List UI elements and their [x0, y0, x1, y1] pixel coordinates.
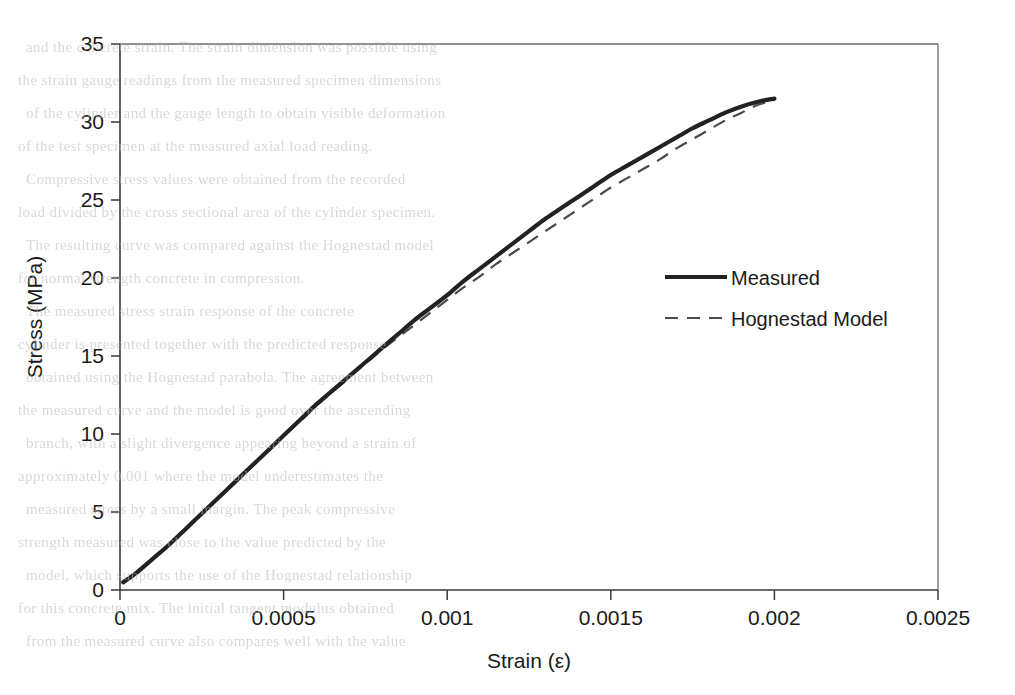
y-axis-title: Stress (MPa)	[23, 256, 46, 379]
y-tick-label: 10	[81, 422, 104, 445]
x-axis-tick-labels: 00.00050.0010.00150.0020.0025	[114, 606, 970, 629]
legend-label-hognestad-model: Hognestad Model	[731, 308, 888, 330]
y-tick-label: 0	[92, 578, 104, 601]
y-axis-tick-labels: 05101520253035	[81, 32, 104, 601]
x-tick-label: 0.002	[748, 606, 801, 629]
legend-label-measured: Measured	[731, 267, 820, 289]
series-line-measured	[123, 99, 774, 583]
series-line-hognestad-model	[123, 100, 774, 582]
x-axis-title: Strain (ε)	[487, 649, 571, 672]
x-tick-label: 0.0015	[579, 606, 643, 629]
x-tick-label: 0.001	[421, 606, 474, 629]
y-tick-label: 15	[81, 344, 104, 367]
y-tick-label: 30	[81, 110, 104, 133]
stress-strain-chart: 05101520253035 00.00050.0010.00150.0020.…	[0, 0, 1015, 695]
x-axis-ticks	[120, 590, 938, 600]
x-tick-label: 0.0005	[251, 606, 315, 629]
y-tick-label: 5	[92, 500, 104, 523]
chart-legend: Measured Hognestad Model	[665, 267, 888, 330]
y-tick-label: 25	[81, 188, 104, 211]
y-tick-label: 20	[81, 266, 104, 289]
y-tick-label: 35	[81, 32, 104, 55]
x-tick-label: 0	[114, 606, 126, 629]
x-tick-label: 0.0025	[906, 606, 970, 629]
figure-container: and the concrete strain. The strain dime…	[0, 0, 1015, 695]
y-axis-ticks	[111, 44, 120, 590]
